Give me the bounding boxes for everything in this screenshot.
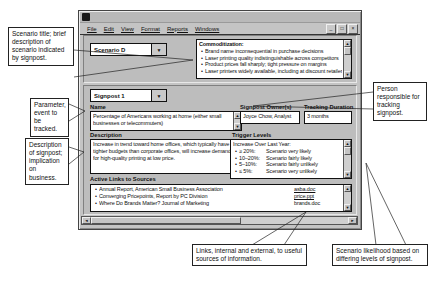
scrollbar-thumb[interactable] <box>91 217 241 224</box>
signpost-panel: Signpost 1 ▼ Name Percentage of American… <box>83 85 357 215</box>
callout-links: Links, internal and external, to useful … <box>192 244 307 266</box>
link-file[interactable]: price.ppt <box>294 193 342 200</box>
app-window: File Edit View Format Reports Windows _ … <box>78 10 362 230</box>
app-icon[interactable] <box>82 13 90 21</box>
menu-bar: File Edit View Format Reports Windows _ … <box>80 23 360 35</box>
owner-field[interactable]: Joyce Chow, Analyst <box>240 111 300 124</box>
trigger-item: •≥ 20%:Scenario very likely <box>233 148 342 155</box>
trigger-heading: Increase Over Last Year: <box>233 141 342 148</box>
menu-view[interactable]: View <box>121 26 134 32</box>
trigger-levels-label: Trigger Levels <box>232 132 271 138</box>
commoditization-bullet: •Laser printing quality indistinguishabl… <box>199 55 342 62</box>
menu-windows[interactable]: Windows <box>195 26 219 32</box>
commoditization-content: Commoditization: •Brand name inconsequen… <box>199 41 342 77</box>
figure-canvas: Scenario title; brief description of sce… <box>0 0 429 287</box>
scroll-down-icon[interactable]: ▼ <box>344 71 351 78</box>
signpost-selector-value[interactable]: Signpost 1 <box>90 89 152 102</box>
scenario-selector[interactable]: Scenario D ▼ <box>90 43 167 56</box>
link-source: Annual Report, American Small Business A… <box>99 186 294 193</box>
name-field[interactable]: Percentage of Americans working at home … <box>90 111 242 131</box>
trigger-levels-field[interactable]: Increase Over Last Year: •≥ 20%:Scenario… <box>230 139 352 179</box>
owner-value: Joyce Chow, Analyst <box>243 113 297 122</box>
title-bar <box>80 12 360 23</box>
scroll-left-icon[interactable]: ◄ <box>82 217 91 224</box>
scroll-down-icon[interactable]: ▼ <box>234 123 241 130</box>
minimize-icon[interactable]: _ <box>326 24 336 34</box>
commoditization-bullet: •Product prices fall sharply; tight pres… <box>199 61 342 68</box>
chevron-down-icon[interactable]: ▼ <box>152 89 167 102</box>
scrollbar-thumb[interactable] <box>344 147 351 155</box>
tracking-duration-field[interactable]: 3 months <box>304 111 352 124</box>
menu-reports[interactable]: Reports <box>167 26 188 32</box>
description-label: Description <box>90 132 122 138</box>
window-controls: _ □ × <box>326 24 358 34</box>
menu-edit[interactable]: Edit <box>104 26 114 32</box>
description-value: Increase in trend toward home offices, w… <box>93 141 232 172</box>
commoditization-textarea[interactable]: Commoditization: •Brand name inconsequen… <box>196 39 352 79</box>
commoditization-bullet: •Brand name inconsequential in purchase … <box>199 48 342 55</box>
menu-format[interactable]: Format <box>141 26 160 32</box>
trigger-item: •≤ 5%:Scenario very unlikely <box>233 168 342 175</box>
trigger-item: •10–20%:Scenario fairly likely <box>233 155 342 162</box>
scrollbar[interactable]: ▲ ▼ <box>343 185 351 211</box>
scroll-up-icon[interactable]: ▲ <box>344 185 351 192</box>
scroll-down-icon[interactable]: ▼ <box>344 171 351 178</box>
name-value: Percentage of Americans working at home … <box>93 113 232 129</box>
commoditization-bullet: •Laser printers widely available, includ… <box>199 68 342 75</box>
scenario-panel: Scenario D ▼ Commoditization: •Brand nam… <box>83 35 357 83</box>
scrollbar[interactable]: ▲ ▼ <box>343 40 351 78</box>
tracking-duration-value: 3 months <box>307 113 349 122</box>
callout-owner: Person responsible for tracking signpost… <box>373 82 427 121</box>
link-item: •Where Do Brands Matter? Journal of Mark… <box>93 200 342 207</box>
chevron-down-icon[interactable]: ▼ <box>152 43 167 56</box>
tracking-duration-label: Tracking Duration <box>304 104 353 110</box>
name-label: Name <box>90 104 106 110</box>
link-source: Where Do Brands Matter? Journal of Marke… <box>99 200 294 207</box>
commoditization-title: Commoditization: <box>199 41 342 48</box>
link-item: •Annual Report, American Small Business … <box>93 186 342 193</box>
scenario-selector-value[interactable]: Scenario D <box>90 43 152 56</box>
trigger-levels-content: Increase Over Last Year: •≥ 20%:Scenario… <box>233 141 342 177</box>
link-source: Converging Pricepoints, Report by PC Div… <box>99 193 294 200</box>
menu-file[interactable]: File <box>87 26 97 32</box>
active-links-field[interactable]: •Annual Report, American Small Business … <box>90 184 352 212</box>
scroll-up-icon[interactable]: ▲ <box>344 140 351 147</box>
callout-likelihood: Scenario likelihood based on differing l… <box>332 244 428 266</box>
scroll-down-icon[interactable]: ▼ <box>344 204 351 211</box>
link-item: •Converging Pricepoints, Report by PC Di… <box>93 193 342 200</box>
horizontal-scrollbar[interactable]: ◄ ► <box>81 216 358 225</box>
trigger-item: •5–10%:Scenario fairly unlikely <box>233 161 342 168</box>
callout-description: Description of signpost; implication on … <box>25 138 69 185</box>
active-links-content: •Annual Report, American Small Business … <box>93 186 342 210</box>
callout-scenario-title: Scenario title; brief description of sce… <box>8 27 74 66</box>
active-links-label: Active Links to Sources <box>90 176 156 182</box>
link-file[interactable]: asba.doc <box>294 186 342 193</box>
owner-label: Signpost Owner(s) <box>240 104 292 110</box>
callout-parameter: Parameter, event to be tracked. <box>30 98 69 137</box>
scrollbar[interactable]: ▲ ▼ <box>343 140 351 178</box>
maximize-icon[interactable]: □ <box>337 24 347 34</box>
description-field[interactable]: Increase in trend toward home offices, w… <box>90 139 242 174</box>
close-icon[interactable]: × <box>348 24 358 34</box>
scrollbar-thumb[interactable] <box>344 47 351 55</box>
scroll-up-icon[interactable]: ▲ <box>344 40 351 47</box>
scroll-right-icon[interactable]: ► <box>348 217 357 224</box>
link-file[interactable]: brands.doc <box>294 200 342 207</box>
scrollbar-track[interactable] <box>241 217 348 224</box>
signpost-selector[interactable]: Signpost 1 ▼ <box>90 89 167 102</box>
